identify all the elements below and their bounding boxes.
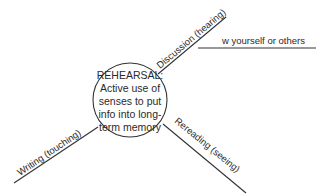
mind-map: REHEARSAL: Active use of senses to put i…: [0, 0, 322, 196]
branch-line-discussion: [158, 17, 226, 74]
sub-branch-label: w yourself or others: [221, 35, 305, 46]
center-line-1: REHEARSAL:: [97, 69, 164, 81]
branch-label-discussion: Discussion (hearing): [154, 6, 227, 70]
center-line-2: Active use of: [100, 82, 160, 94]
center-line-4: info into long-: [98, 108, 162, 120]
center-line-5: term memory: [99, 121, 162, 133]
branch-label-writing: Writing (touching): [15, 127, 83, 178]
center-node-text: REHEARSAL: Active use of senses to put i…: [97, 69, 164, 133]
center-line-3: senses to put: [99, 95, 162, 107]
branch-label-rereading: Rereading (seeing): [173, 115, 243, 174]
branch-line-writing: [14, 127, 98, 183]
